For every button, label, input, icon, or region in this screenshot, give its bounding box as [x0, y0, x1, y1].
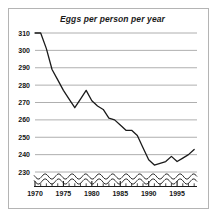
x-tick-label-1975: 1975 [50, 190, 76, 197]
x-tick-label-1995: 1995 [164, 190, 190, 197]
y-tick-label-290: 290 [8, 64, 30, 71]
axis-break-wave-1 [34, 174, 197, 179]
x-tick-label-1985: 1985 [107, 190, 133, 197]
y-tick-label-270: 270 [8, 99, 30, 106]
y-tick-label-310: 310 [8, 30, 30, 37]
y-tick-label-230: 230 [8, 169, 30, 176]
y-tick-label-280: 280 [8, 82, 30, 89]
x-tick-label-1980: 1980 [79, 190, 105, 197]
axis-break-wave-2 [34, 179, 197, 184]
axis-break-wave [34, 174, 197, 184]
y-tick-label-240: 240 [8, 151, 30, 158]
y-tick-label-250: 250 [8, 134, 30, 141]
chart-plot-area [0, 0, 217, 217]
chart-figure: Eggs per person per year 310300290280270… [0, 0, 217, 217]
y-tick-label-300: 300 [8, 47, 30, 54]
x-tick-label-1990: 1990 [136, 190, 162, 197]
x-tick-label-1970: 1970 [22, 190, 48, 197]
y-tick-label-260: 260 [8, 116, 30, 123]
data-series-line [35, 33, 194, 165]
gridlines-group [35, 33, 197, 172]
